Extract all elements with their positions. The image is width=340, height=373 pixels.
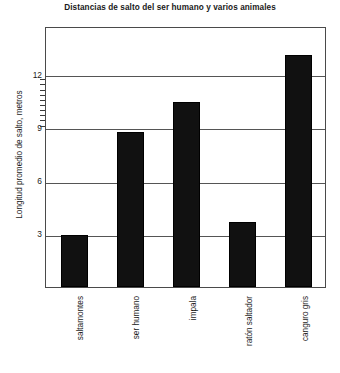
x-label-ser-humano: ser humano (133, 296, 141, 339)
bar-ratón-saltador (229, 222, 256, 287)
y-tick-label-12: 12 (26, 71, 42, 79)
chart-title: Distancias de salto del ser humano y var… (0, 3, 340, 12)
y-axis-title-container: Longitud promedio de salto, metros (0, 0, 20, 373)
gridline-12 (46, 76, 325, 77)
y-tick-label-6: 6 (26, 177, 42, 185)
bar-ser-humano (117, 132, 144, 287)
x-label-ratón-saltador: ratón saltador (246, 296, 254, 346)
x-label-saltamontes: saltamontes (77, 296, 85, 340)
y-axis-tick-labels: 12963 (22, 0, 42, 373)
x-label-canguro-gris: canguro gris (302, 296, 310, 341)
plot-area (45, 27, 326, 288)
bar-impala (173, 102, 200, 287)
x-label-impala: impala (190, 296, 198, 320)
y-tick-label-3: 3 (26, 230, 42, 238)
bar-saltamontes (61, 235, 88, 287)
bar-canguro-gris (285, 55, 312, 287)
